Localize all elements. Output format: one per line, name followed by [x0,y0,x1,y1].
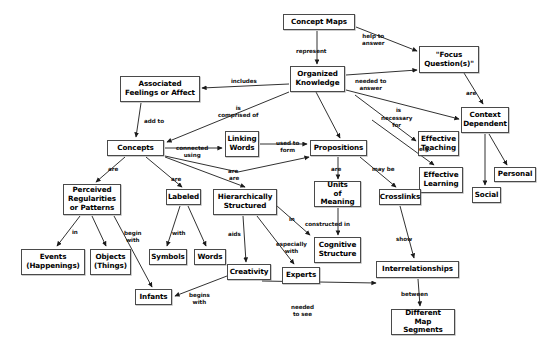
node-interrelationships[interactable]: Interrelationships [376,261,459,278]
node-perceived-regularities[interactable]: Perceived Regularities or Patterns [63,184,121,215]
node-hierarchically-structured[interactable]: Hierarchically Structured [213,189,277,215]
node-context-dependent[interactable]: Context Dependent [461,107,509,133]
edge-organized-knowledge-to-associated-feelings [202,84,289,88]
edge-label-propositions-to-crosslinks: may be [372,166,395,173]
node-concept-maps[interactable]: Concept Maps [283,14,355,30]
edge-context-dependent-to-personal [489,134,507,165]
edge-label-hierarchically-structured-to-experts: especially with [276,241,307,254]
edge-label-labeled-to-symbols: with [172,230,186,237]
node-units-of-meaning[interactable]: Units of Meaning [314,181,361,207]
edge-labeled-to-words [188,206,206,246]
edge-label-creativity-to-interrelationships: needed to see [291,304,314,317]
node-objects[interactable]: Objects (Things) [90,249,131,275]
node-experts[interactable]: Experts [282,267,320,284]
edge-label-concepts-to-perceived-regularities: are [108,166,118,173]
edge-associated-feelings-to-concepts [136,103,141,137]
edge-label-context-dependent-to-social: e.g. [419,146,431,153]
edge-label-concepts-to-linking-words: connected using [176,145,208,158]
node-linking-words[interactable]: Linking Words [225,131,259,157]
edge-label-organized-knowledge-to-effective-teaching: necessary for [381,115,412,128]
edge-label-interrelationships-to-different-map-segments: between [401,291,428,298]
edge-label-associated-feelings-to-concepts: add to [144,118,164,125]
edge-organized-knowledge-to-propositions [316,92,340,138]
node-different-map-segments[interactable]: Different Map Segments [391,309,455,335]
node-social[interactable]: Social [472,187,501,203]
node-labeled[interactable]: Labeled [166,189,201,205]
edge-hierarchically-structured-to-creativity [243,216,246,262]
edge-label-concepts-to-hierarchically-structured: are [229,175,239,182]
edge-label-concepts-to-propositions: are [228,168,238,175]
node-effective-learning[interactable]: Effective Learning [419,167,463,193]
edge-label-concepts-to-labeled: are [171,176,181,183]
edge-label-concept-maps-to-organized-knowledge: represent [296,48,326,55]
node-events[interactable]: Events (Happenings) [21,249,85,275]
node-concepts[interactable]: Concepts [107,140,164,156]
edge-label-focus-questions-to-context-dependent: are [466,90,476,97]
edge-crosslinks-to-interrelationships [400,206,414,258]
edge-label-perceived-regularities-to-infants: begin with [124,230,141,243]
concept-map-canvas: Concept Maps"Focus Question(s)"Organized… [0,0,553,356]
edge-hierarchically-structured-to-experts [257,216,294,264]
node-crosslinks[interactable]: Crosslinks [379,189,421,205]
edge-label-creativity-to-infants: begins with [189,292,210,305]
edge-labeled-to-symbols [167,206,180,246]
node-cognitive-structure[interactable]: Cognitive Structure [314,237,361,263]
edge-label-organized-knowledge-to-focus-questions: needed to answer [355,78,386,91]
node-symbols[interactable]: Symbols [149,249,187,265]
edge-label-perceived-regularities-to-events: in [72,229,78,236]
edge-label-crosslinks-to-interrelationships: show [396,236,412,243]
node-words[interactable]: Words [194,249,226,265]
edge-label-linking-words-to-propositions: used to form [276,140,299,153]
node-personal[interactable]: Personal [494,167,536,182]
edge-label-propositions-to-units-of-meaning: are [331,166,341,173]
edge-label-hierarchically-structured-to-cognitive-structure: in [289,216,295,223]
edge-label-organized-knowledge-to-associated-feelings: includes [231,78,257,85]
node-focus-questions[interactable]: "Focus Question(s)" [419,46,479,73]
edge-organized-knowledge-to-focus-questions [346,70,417,75]
node-organized-knowledge[interactable]: Organized Knowledge [290,66,345,92]
edge-label-organized-knowledge-to-context-dependent: is [396,107,401,114]
edge-perceived-regularities-to-objects [92,216,106,246]
edge-label-hierarchically-structured-to-creativity: aids [228,231,241,238]
node-propositions[interactable]: Propositions [310,140,367,156]
node-creativity[interactable]: Creativity [227,264,271,280]
node-infants[interactable]: Infants [135,289,172,305]
node-associated-feelings[interactable]: Associated Feelings or Affect [120,76,200,102]
edge-focus-questions-to-context-dependent [464,73,483,104]
edge-label-organized-knowledge-to-concepts: is comprised of [218,105,258,118]
edge-label-units-of-meaning-to-cognitive-structure: constructed in [305,221,350,228]
edge-label-concept-maps-to-focus-questions: help to answer [362,33,385,46]
